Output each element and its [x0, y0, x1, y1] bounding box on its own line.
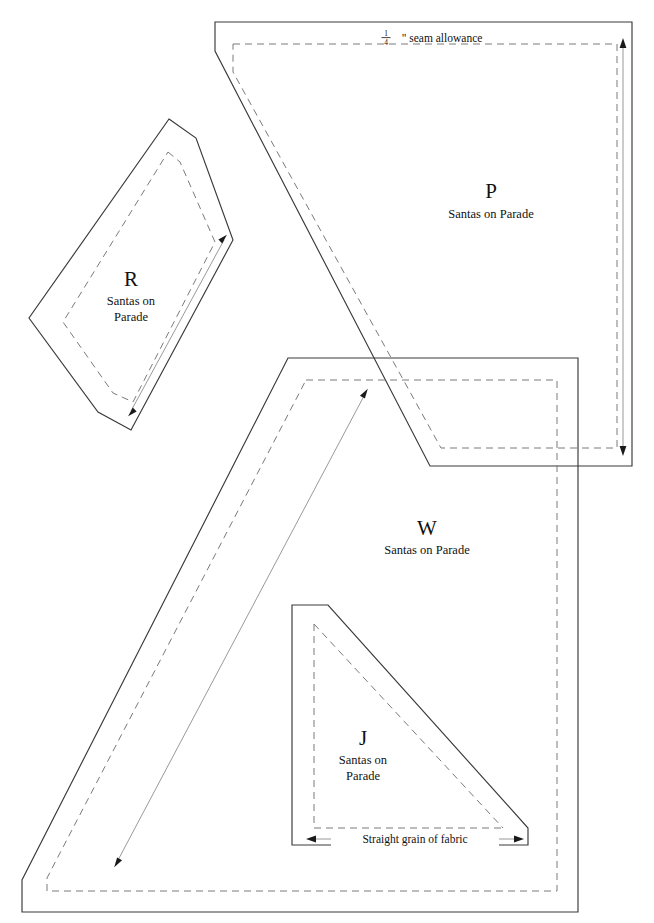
grain-arrowhead-top-w — [360, 389, 368, 399]
piece-name-r-line1: Santas on — [107, 294, 156, 308]
piece-name-j-line1: Santas on — [339, 753, 388, 767]
cut-line-w[interactable] — [22, 358, 578, 912]
grain-arrow-p — [620, 38, 627, 456]
pattern-sheet: P Santas on Parade 1 4 " seam allowance … — [0, 0, 654, 923]
cut-line-p[interactable] — [215, 22, 632, 466]
grain-line-w — [117, 394, 365, 862]
grain-arrowhead-right-j — [514, 836, 524, 843]
pattern-canvas: P Santas on Parade 1 4 " seam allowance … — [0, 0, 654, 923]
pattern-piece-w[interactable]: W Santas on Parade — [22, 358, 578, 912]
grain-line-r — [131, 240, 224, 411]
straight-grain-label: Straight grain of fabric — [362, 833, 467, 846]
grain-arrowhead-bottom-p — [620, 446, 627, 456]
seam-allowance-denominator: 4 — [384, 38, 388, 47]
pattern-piece-p[interactable]: P Santas on Parade — [215, 22, 632, 466]
grain-arrowhead-bottom-r — [128, 407, 137, 416]
piece-name-p: Santas on Parade — [448, 207, 534, 221]
piece-letter-j: J — [359, 726, 367, 750]
seam-line-r — [63, 152, 215, 402]
piece-name-r-line2: Parade — [114, 310, 148, 324]
pattern-piece-r[interactable]: R Santas on Parade — [29, 119, 233, 430]
grain-arrowhead-top-r — [218, 235, 227, 244]
grain-arrowhead-top-p — [620, 38, 627, 48]
seam-allowance-note: 1 4 " seam allowance — [382, 29, 483, 47]
piece-letter-r: R — [124, 267, 138, 291]
grain-arrowhead-bottom-w — [114, 858, 122, 868]
cut-line-j[interactable] — [292, 605, 528, 845]
piece-name-w: Santas on Parade — [384, 543, 470, 557]
grain-arrow-r — [128, 235, 227, 417]
piece-name-j-line2: Parade — [346, 769, 380, 783]
pattern-piece-j[interactable]: Straight grain of fabric J Santas on Par… — [292, 605, 528, 846]
grain-arrowhead-left-j — [306, 836, 316, 843]
grain-arrow-w — [114, 389, 368, 868]
seam-allowance-label: " seam allowance — [402, 32, 483, 44]
piece-letter-p: P — [485, 179, 497, 203]
seam-line-j-diagonal — [314, 624, 503, 828]
seam-line-p — [233, 44, 617, 448]
piece-letter-w: W — [417, 516, 437, 540]
seam-line-w — [47, 380, 557, 891]
